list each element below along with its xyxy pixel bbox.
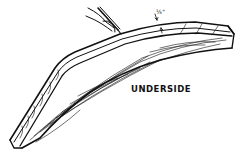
- underside-label: UNDERSIDE: [131, 84, 191, 94]
- wood-grain: [30, 38, 226, 142]
- curved-board-illustration: [0, 0, 244, 156]
- board-inner-edge: [20, 33, 232, 146]
- board-left-end: [10, 140, 22, 148]
- dimension-label: ⅛": [156, 8, 166, 15]
- board-right-end: [228, 26, 234, 48]
- hand-with-pencil: [86, 7, 121, 34]
- end-grain-arcs: [20, 24, 218, 138]
- dimension-arrows: [155, 14, 163, 33]
- diagram-canvas: ⅛" UNDERSIDE: [0, 0, 244, 156]
- board-bottom-edge: [22, 48, 232, 148]
- board-top-edge: [10, 22, 234, 140]
